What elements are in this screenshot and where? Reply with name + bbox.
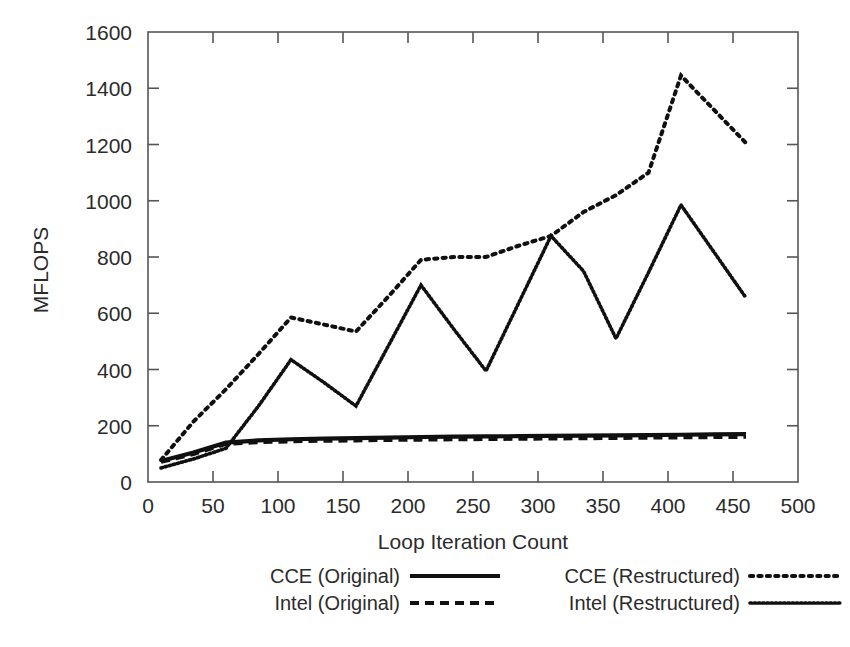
y-tick-label: 1600 <box>85 21 132 44</box>
x-tick-label: 250 <box>455 494 490 517</box>
chart-svg: 02004006008001000120014001600 0501001502… <box>0 0 850 647</box>
x-tick-label: 200 <box>390 494 425 517</box>
y-tick-label: 800 <box>97 246 132 269</box>
y-tick-label: 600 <box>97 302 132 325</box>
y-tick-label: 200 <box>97 415 132 438</box>
x-tick-label: 400 <box>650 494 685 517</box>
x-tick-label: 0 <box>142 494 154 517</box>
legend-label-cce-original: CCE (Original) <box>270 565 400 587</box>
x-tick-label: 300 <box>520 494 555 517</box>
x-tick-label: 150 <box>325 494 360 517</box>
x-axis-title: Loop Iteration Count <box>378 530 568 553</box>
y-tick-label: 400 <box>97 359 132 382</box>
y-axis-title: MFLOPS <box>29 227 52 313</box>
x-tick-label: 350 <box>585 494 620 517</box>
y-tick-label: 1200 <box>85 134 132 157</box>
x-tick-label: 50 <box>201 494 224 517</box>
y-tick-label: 0 <box>120 471 132 494</box>
y-tick-label: 1000 <box>85 190 132 213</box>
x-tick-label: 100 <box>260 494 295 517</box>
legend-label-intel-original: Intel (Original) <box>274 592 400 614</box>
legend-label-cce-restructured: CCE (Restructured) <box>564 565 740 587</box>
legend-label-intel-restructured: Intel (Restructured) <box>569 592 740 614</box>
chart-figure: 02004006008001000120014001600 0501001502… <box>0 0 850 647</box>
x-tick-label: 450 <box>715 494 750 517</box>
y-tick-label: 1400 <box>85 77 132 100</box>
x-tick-label: 500 <box>780 494 815 517</box>
